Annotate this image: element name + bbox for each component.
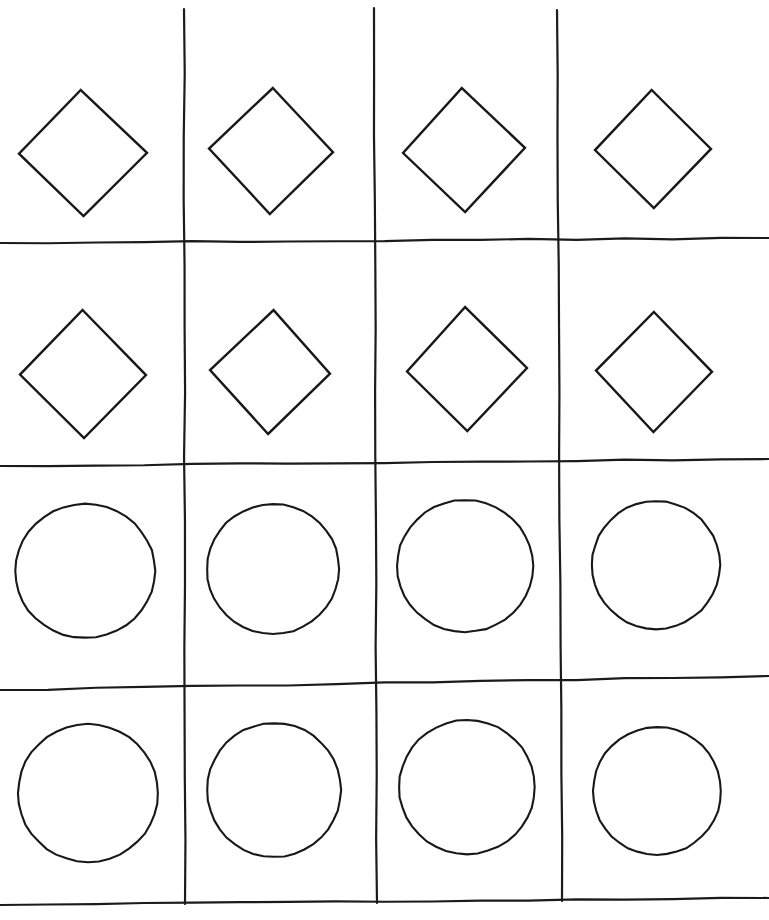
shape-grid-svg <box>0 0 769 920</box>
worksheet-canvas <box>0 0 769 920</box>
